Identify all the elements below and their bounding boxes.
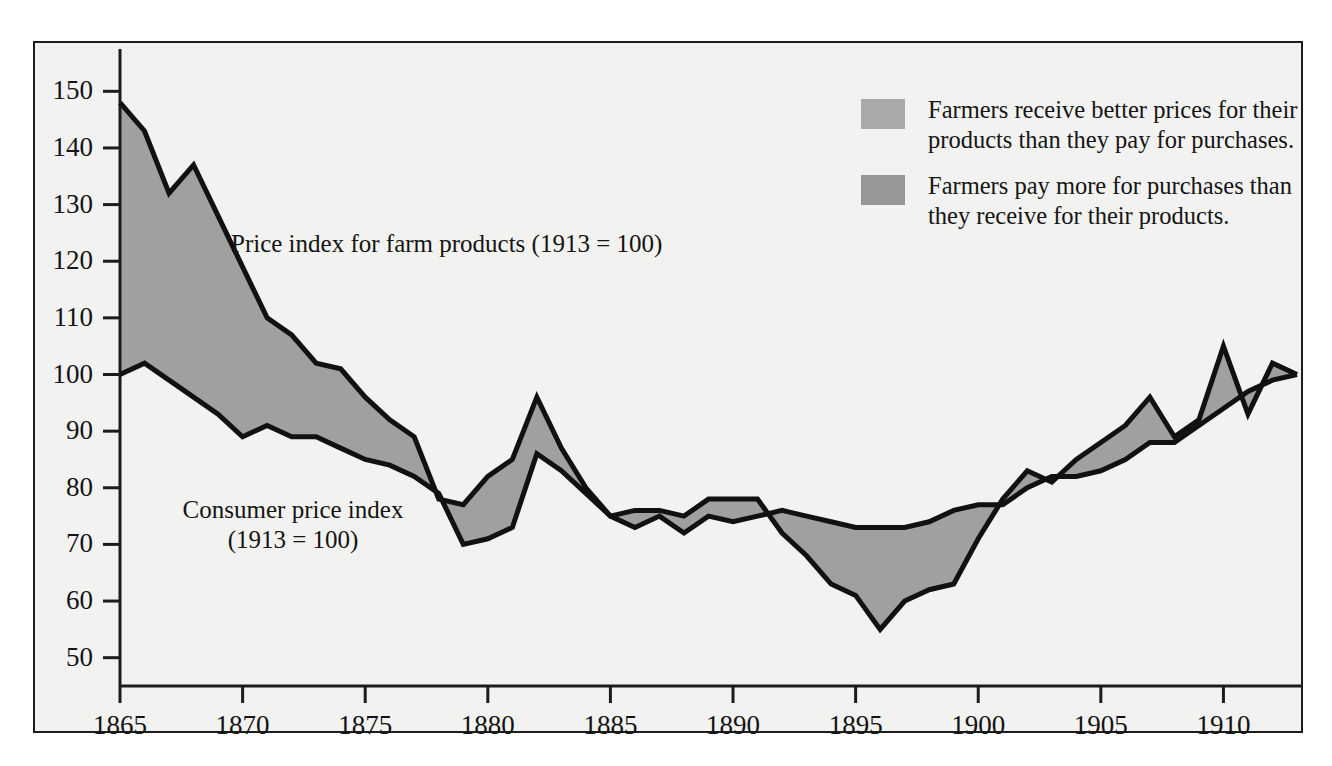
y-axis-tick-label: 140 bbox=[31, 134, 93, 161]
plot-area: 5060708090100110120130140150 18651870187… bbox=[35, 43, 1305, 735]
legend-label: Farmers receive better prices for their … bbox=[928, 95, 1297, 155]
y-axis-tick-label: 60 bbox=[31, 587, 93, 614]
x-axis-tick-label: 1870 bbox=[198, 712, 288, 739]
y-axis-tick-label: 80 bbox=[31, 474, 93, 501]
x-axis-tick-label: 1885 bbox=[565, 712, 655, 739]
x-axis-tick-label: 1900 bbox=[933, 712, 1023, 739]
chart-legend: Farmers receive better prices for their … bbox=[861, 95, 1331, 247]
legend-item: Farmers receive better prices for their … bbox=[861, 95, 1331, 155]
consumer-price-index-series-label: Consumer price index (1913 = 100) bbox=[153, 495, 433, 554]
y-axis-tick-label: 100 bbox=[31, 361, 93, 388]
y-axis-tick-label: 50 bbox=[31, 644, 93, 671]
y-axis-tick-label: 110 bbox=[31, 304, 93, 331]
y-axis-tick-label: 120 bbox=[31, 247, 93, 274]
legend-swatch bbox=[861, 99, 905, 129]
y-axis-tick-label: 70 bbox=[31, 530, 93, 557]
x-axis-tick-label: 1890 bbox=[688, 712, 778, 739]
figure-root: 5060708090100110120130140150 18651870187… bbox=[0, 0, 1332, 766]
legend-item: Farmers pay more for purchases than they… bbox=[861, 171, 1331, 231]
farm-products-series-label: Price index for farm products (1913 = 10… bbox=[231, 229, 662, 259]
y-axis-tick-label: 90 bbox=[31, 417, 93, 444]
x-axis-tick-label: 1875 bbox=[320, 712, 410, 739]
x-axis-tick-label: 1895 bbox=[811, 712, 901, 739]
y-axis-tick-label: 150 bbox=[31, 77, 93, 104]
legend-swatch bbox=[861, 175, 905, 205]
x-axis-tick-label: 1910 bbox=[1178, 712, 1268, 739]
x-axis-tick-label: 1905 bbox=[1056, 712, 1146, 739]
legend-label: Farmers pay more for purchases than they… bbox=[928, 171, 1292, 231]
chart-plate: 5060708090100110120130140150 18651870187… bbox=[33, 41, 1303, 733]
y-axis-tick-label: 130 bbox=[31, 191, 93, 218]
x-axis-tick-label: 1880 bbox=[443, 712, 533, 739]
x-axis-tick-label: 1865 bbox=[75, 712, 165, 739]
